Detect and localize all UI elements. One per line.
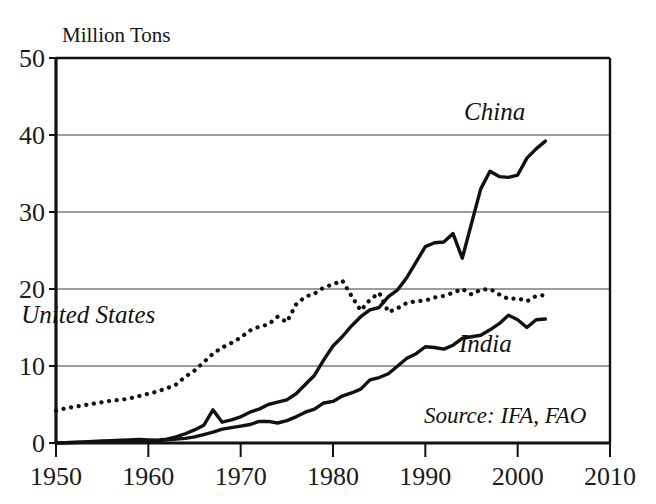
y-tick-label-40: 40: [19, 121, 45, 150]
chart-background: [0, 0, 656, 504]
y-tick-label-0: 0: [32, 429, 45, 458]
series-label-china: China: [464, 98, 525, 125]
x-tick-label-1970: 1970: [215, 462, 267, 491]
y-tick-label-50: 50: [19, 44, 45, 73]
x-tick-label-2010: 2010: [584, 462, 636, 491]
y-tick-label-20: 20: [19, 275, 45, 304]
y-tick-label-10: 10: [19, 352, 45, 381]
source-annotation: Source: IFA, FAO: [424, 403, 587, 428]
y-tick-label-30: 30: [19, 198, 45, 227]
x-tick-label-1960: 1960: [122, 462, 174, 491]
fertilizer-use-line-chart: 01020304050 1950196019701980199020002010…: [0, 0, 656, 504]
x-tick-label-2000: 2000: [492, 462, 544, 491]
x-tick-label-1950: 1950: [30, 462, 82, 491]
y-axis-title: Million Tons: [62, 23, 170, 47]
series-label-united-states: United States: [21, 301, 155, 328]
x-tick-label-1980: 1980: [307, 462, 359, 491]
series-label-india: India: [458, 330, 512, 357]
x-tick-label-1990: 1990: [399, 462, 451, 491]
chart-figure: 01020304050 1950196019701980199020002010…: [0, 0, 656, 504]
